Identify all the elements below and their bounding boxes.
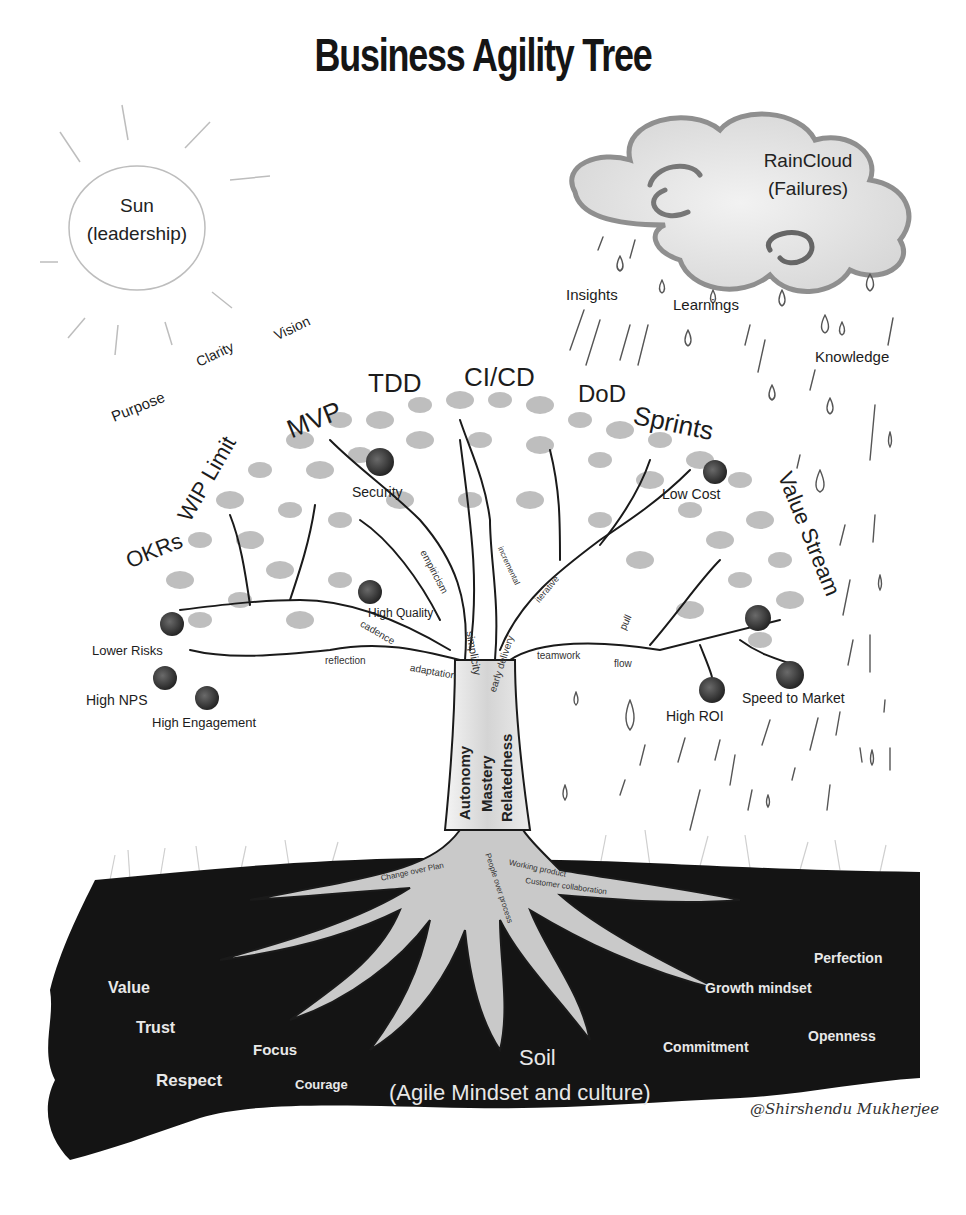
soil-subtitle: (Agile Mindset and culture) xyxy=(389,1080,651,1106)
fruit-label-high-roi: High ROI xyxy=(666,708,724,724)
practice-ci-cd: CI/CD xyxy=(464,362,535,393)
fruit-high-quality xyxy=(358,580,382,604)
word-knowledge: Knowledge xyxy=(815,348,889,365)
soil-commitment: Commitment xyxy=(663,1039,749,1055)
soil-courage: Courage xyxy=(295,1077,348,1092)
soil-title: Soil xyxy=(519,1045,556,1071)
principle-reflection: reflection xyxy=(325,655,366,666)
soil-focus: Focus xyxy=(253,1041,297,1058)
soil-trust: Trust xyxy=(136,1019,175,1037)
fruit-label-low-cost: Low Cost xyxy=(662,486,720,502)
trunk-relatedness: Relatedness xyxy=(498,734,515,822)
word-insights: Insights xyxy=(566,286,618,303)
practice-tdd: TDD xyxy=(368,368,421,399)
fruit-high-nps xyxy=(153,666,177,690)
soil-openness: Openness xyxy=(808,1028,876,1044)
fruit-high-roi xyxy=(699,677,725,703)
soil-perfection: Perfection xyxy=(814,950,882,966)
trunk-autonomy: Autonomy xyxy=(456,746,473,820)
fruit-label-high-engagement: High Engagement xyxy=(152,715,256,730)
soil-respect: Respect xyxy=(156,1071,222,1091)
author-signature: @Shirshendu Mukherjee xyxy=(750,1100,939,1118)
soil-value: Value xyxy=(108,979,150,997)
principle-flow: flow xyxy=(614,658,632,669)
fruit-label-high-nps: High NPS xyxy=(86,692,147,708)
fruit-label-lower-risks: Lower Risks xyxy=(92,643,163,658)
fruit-security xyxy=(366,448,394,476)
fruit-lower-risks xyxy=(160,612,184,636)
fruit-label-security: Security xyxy=(352,484,403,500)
cloud-label: RainCloud (Failures) xyxy=(745,147,871,203)
fruit-high-engagement xyxy=(195,686,219,710)
fruit-value-stream xyxy=(745,605,771,631)
trunk-mastery: Mastery xyxy=(478,755,495,812)
fruit-low-cost xyxy=(703,460,727,484)
practice-dod: DoD xyxy=(578,380,626,408)
principle-teamwork: teamwork xyxy=(537,650,580,661)
fruit-label-speed-to-market: Speed to Market xyxy=(742,690,845,706)
word-learnings: Learnings xyxy=(673,296,739,313)
fruit-speed-to-market xyxy=(776,661,804,689)
sun-label: Sun (leadership) xyxy=(70,192,204,248)
fruit-label-high-quality: High Quality xyxy=(368,606,433,620)
soil-growth-mindset: Growth mindset xyxy=(705,980,812,996)
